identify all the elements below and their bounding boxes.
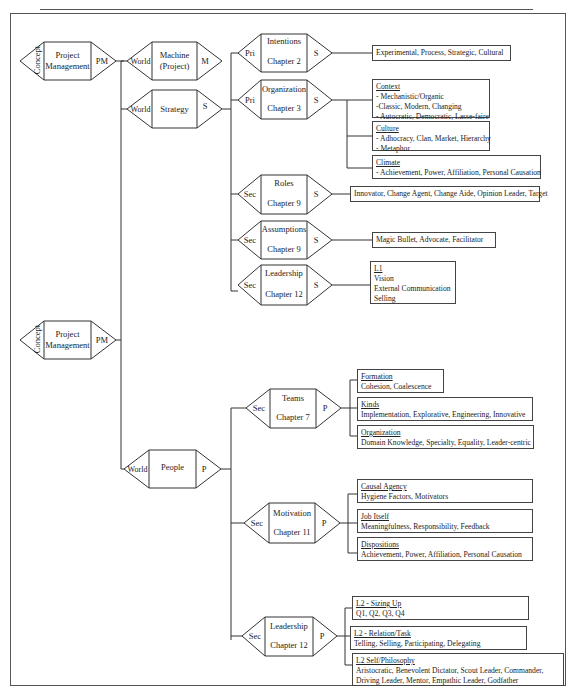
box-title: Formation — [361, 372, 440, 382]
box-line: Experimental, Process, Strategic, Cultur… — [376, 48, 507, 58]
box-title: Dispositions — [361, 540, 529, 550]
node-chapter: Chapter 11 — [269, 527, 315, 538]
node-title: Teams — [270, 393, 316, 404]
detail-box-context: Context - Mechanistic/Organic -Classic, … — [372, 79, 490, 118]
detail-box-dispositions: Dispositions Achievement, Power, Affilia… — [357, 537, 533, 561]
node-title: Leadership — [265, 621, 313, 632]
world-label: World — [128, 104, 153, 115]
box-line: Implementation, Explorative, Engineering… — [361, 410, 529, 420]
detail-box-sizing-up: L2 - Sizing Up Q1, Q2, Q3, Q4 — [352, 596, 529, 620]
world-type: S — [198, 101, 212, 112]
concept-label: Concept — [32, 40, 42, 80]
box-title: Causal Agency — [361, 482, 529, 492]
detail-box-intentions: Experimental, Process, Strategic, Cultur… — [372, 45, 511, 61]
detail-box-self-philosophy: L2 Self/Philosophy Aristocratic, Benevol… — [352, 653, 564, 686]
box-line: Telling, Selling, Participating, Delegat… — [354, 639, 523, 649]
world-label: World — [125, 464, 150, 475]
concept-title: Project Management — [44, 329, 91, 351]
box-title: Context — [376, 82, 486, 92]
priority-label: Pri — [240, 95, 260, 106]
detail-box-organization: Organization Domain Knowledge, Specialty… — [357, 425, 534, 449]
node-title: Leadership — [261, 268, 307, 279]
node-type: S — [309, 235, 323, 246]
box-title: L1 — [374, 264, 452, 274]
priority-label: Sec — [240, 280, 260, 291]
box-title: Kinds — [361, 400, 529, 410]
world-title: Strategy — [152, 104, 197, 115]
node-chapter: Chapter 12 — [265, 640, 313, 651]
node-type: S — [309, 189, 323, 200]
detail-box-kinds: Kinds Implementation, Explorative, Engin… — [357, 397, 533, 421]
node-type: S — [309, 95, 323, 106]
box-line: Vision — [374, 274, 452, 284]
detail-box-culture: Culture - Adhocracy, Clan, Market, Hiera… — [372, 121, 490, 151]
detail-box-causal-agency: Causal Agency Hygiene Factors, Motivator… — [357, 479, 533, 503]
concept-type: PM — [93, 56, 111, 67]
box-line: - Mechanistic/Organic — [376, 92, 486, 102]
node-title: Assumptions — [259, 224, 309, 235]
world-title: People — [149, 462, 196, 473]
priority-label: Pri — [240, 48, 260, 59]
node-chapter: Chapter 7 — [270, 412, 316, 423]
box-line: Domain Knowledge, Specialty, Equality, L… — [361, 438, 530, 448]
node-title: Intentions — [261, 36, 307, 47]
detail-box-roles: Innovator, Change Agent, Change Aide, Op… — [350, 186, 540, 202]
node-type: P — [318, 403, 332, 414]
box-title: Climate — [376, 158, 537, 168]
priority-label: Sec — [247, 518, 267, 529]
box-title: L2 - Relation/Task — [354, 629, 523, 639]
box-line: Aristocratic, Benevolent Dictator, Scout… — [356, 666, 560, 676]
node-chapter: Chapter 3 — [261, 103, 307, 114]
world-label: World — [128, 56, 153, 67]
box-line: External Communication — [374, 284, 452, 294]
detail-box-leadership-l1: L1 Vision External Communication Selling — [370, 261, 456, 304]
node-chapter: Chapter 12 — [261, 289, 307, 300]
box-title: Job Itself — [361, 512, 529, 522]
node-title: Organization — [259, 84, 309, 95]
priority-label: Sec — [240, 235, 260, 246]
box-line: Q1, Q2, Q3, Q4 — [356, 609, 525, 619]
box-line: Selling — [374, 294, 452, 304]
concept-type: PM — [93, 335, 111, 346]
node-chapter: Chapter 2 — [261, 56, 307, 67]
concept-title: Project Management — [44, 50, 91, 72]
node-chapter: Chapter 9 — [261, 244, 307, 255]
priority-label: Sec — [240, 189, 260, 200]
box-line: Meaningfulness, Responsibility, Feedback — [361, 522, 529, 532]
world-type: P — [197, 464, 211, 475]
node-title: Motivation — [269, 508, 315, 519]
detail-box-relation-task: L2 - Relation/Task Telling, Selling, Par… — [350, 626, 527, 650]
detail-box-formation: Formation Cohesion, Coalescence — [357, 369, 444, 393]
box-title: Organization — [361, 428, 530, 438]
box-line: - Achievement, Power, Affiliation, Perso… — [376, 168, 537, 178]
box-line: -Classic, Modern, Changing — [376, 102, 486, 112]
node-chapter: Chapter 9 — [261, 198, 307, 209]
box-line: - Metaphor — [376, 144, 486, 154]
box-line: Achievement, Power, Affiliation, Persona… — [361, 550, 529, 560]
node-title: Roles — [261, 178, 307, 189]
box-line: Hygiene Factors, Motivators — [361, 492, 529, 502]
priority-label: Sec — [245, 631, 265, 642]
box-line: Driving Leader, Mentor, Empathic Leader,… — [356, 676, 560, 686]
world-title: Machine (Project) — [152, 50, 197, 72]
detail-box-climate: Climate - Achievement, Power, Affiliatio… — [372, 155, 541, 179]
world-type: M — [198, 56, 212, 67]
box-line: Magic Bullet, Advocate, Facilitator — [376, 235, 492, 245]
box-line: - Adhocracy, Clan, Market, Hierarchy — [376, 134, 486, 144]
node-type: S — [309, 280, 323, 291]
detail-box-job-itself: Job Itself Meaningfulness, Responsibilit… — [357, 509, 533, 533]
strategy-node-shape — [238, 34, 332, 305]
box-line: Cohesion, Coalescence — [361, 382, 440, 392]
box-line: Innovator, Change Agent, Change Aide, Op… — [354, 189, 536, 199]
box-title: L2 Self/Philosophy — [356, 656, 560, 666]
node-type: P — [317, 518, 331, 529]
box-title: Culture — [376, 124, 486, 134]
node-type: P — [315, 631, 329, 642]
node-type: S — [309, 48, 323, 59]
box-title: L2 - Sizing Up — [356, 599, 525, 609]
detail-box-assumptions: Magic Bullet, Advocate, Facilitator — [372, 232, 496, 248]
priority-label: Sec — [249, 403, 269, 414]
concept-label: Concept — [32, 319, 42, 359]
